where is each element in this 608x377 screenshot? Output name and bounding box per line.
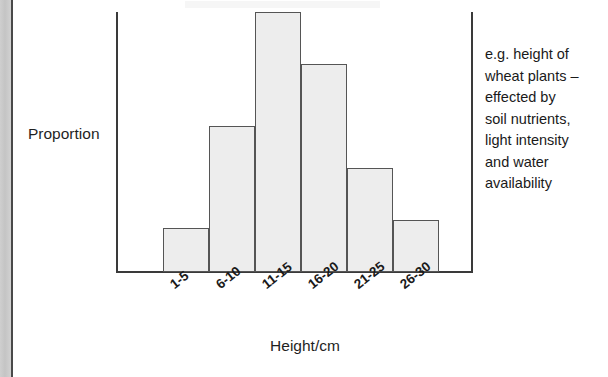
- bar-1-5: [163, 228, 209, 272]
- x-axis-title: Height/cm: [190, 337, 420, 355]
- annotation-line-1: e.g. height of: [485, 44, 605, 66]
- y-axis-label: Proportion: [28, 124, 114, 143]
- x-axis-tick-labels: 1-56-1011-1516-2021-2526-30: [163, 274, 453, 324]
- bar-21-25: [347, 168, 393, 272]
- annotation-line-4: soil nutrients,: [485, 109, 605, 131]
- bars-plot-area: [163, 12, 440, 272]
- bar-16-20: [301, 64, 347, 272]
- y-axis-line: [116, 12, 118, 273]
- plot-right-border-line: [471, 12, 473, 273]
- page-edge-shadow: [0, 0, 11, 377]
- scan-artifact: [185, 1, 380, 8]
- bar-6-10: [209, 126, 255, 272]
- bar-11-15: [255, 12, 301, 272]
- annotation-line-2: wheat plants –: [485, 66, 605, 88]
- side-annotation-text: e.g. height ofwheat plants –effected bys…: [485, 44, 605, 195]
- annotation-line-3: effected by: [485, 87, 605, 109]
- figure-canvas: Proportion 1-56-1011-1516-2021-2526-30 H…: [0, 0, 608, 377]
- annotation-line-7: availability: [485, 173, 605, 195]
- annotation-line-6: and water: [485, 152, 605, 174]
- annotation-line-5: light intensity: [485, 130, 605, 152]
- page-edge-rule: [11, 0, 13, 377]
